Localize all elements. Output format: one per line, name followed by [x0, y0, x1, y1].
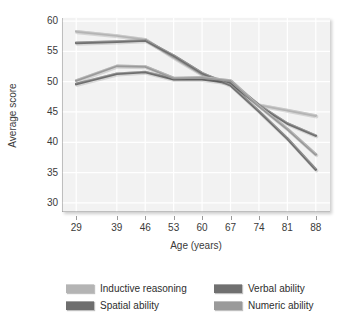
series-line-highlight [76, 40, 316, 169]
x-tick-label: 29 [63, 222, 89, 233]
legend-label: Numeric ability [248, 300, 314, 311]
legend-swatch-icon [214, 301, 242, 310]
x-tick-label: 39 [104, 222, 130, 233]
x-tick-mark [316, 216, 317, 220]
y-axis-tick-labels: 30354045505560 [18, 18, 58, 212]
x-tick-mark [202, 216, 203, 220]
y-tick-label: 50 [24, 77, 58, 87]
legend-swatch-icon [214, 284, 242, 293]
legend-item[interactable]: Inductive reasoning [66, 281, 187, 295]
chart-legend: Inductive reasoningSpatial abilityVerbal… [66, 281, 334, 319]
x-tick-mark [259, 216, 260, 220]
series-line-shadow [77, 73, 317, 137]
plot-area [62, 18, 330, 212]
x-axis-tick-labels: 293946536067748188 [62, 216, 330, 238]
y-tick-label: 55 [24, 46, 58, 56]
legend-item[interactable]: Verbal ability [214, 281, 305, 295]
x-tick-mark [145, 216, 146, 220]
x-axis-title: Age (years) [62, 240, 330, 251]
x-tick-label: 53 [161, 222, 187, 233]
plot-lines [62, 18, 330, 212]
x-tick-mark [117, 216, 118, 220]
legend-label: Spatial ability [100, 300, 159, 311]
legend-swatch-icon [66, 284, 94, 293]
x-tick-label: 60 [189, 222, 215, 233]
y-tick-label: 30 [24, 198, 58, 208]
x-tick-label: 74 [246, 222, 272, 233]
series-line-shadow [77, 41, 317, 170]
y-tick-label: 45 [24, 107, 58, 117]
x-tick-label: 46 [132, 222, 158, 233]
series-line-verbal-ability [76, 40, 316, 169]
x-tick-label: 67 [218, 222, 244, 233]
x-tick-mark [76, 216, 77, 220]
x-tick-mark [287, 216, 288, 220]
x-tick-mark [174, 216, 175, 220]
legend-label: Verbal ability [248, 283, 305, 294]
y-axis-title: Average score [7, 56, 18, 176]
chart-container: Average score 30354045505560 29394653606… [0, 0, 349, 325]
y-tick-label: 40 [24, 137, 58, 147]
legend-item[interactable]: Numeric ability [214, 298, 314, 312]
x-tick-mark [231, 216, 232, 220]
legend-label: Inductive reasoning [100, 283, 187, 294]
legend-swatch-icon [66, 301, 94, 310]
x-tick-label: 81 [274, 222, 300, 233]
y-tick-label: 60 [24, 16, 58, 26]
x-tick-label: 88 [303, 222, 329, 233]
y-tick-label: 35 [24, 168, 58, 178]
legend-item[interactable]: Spatial ability [66, 298, 159, 312]
